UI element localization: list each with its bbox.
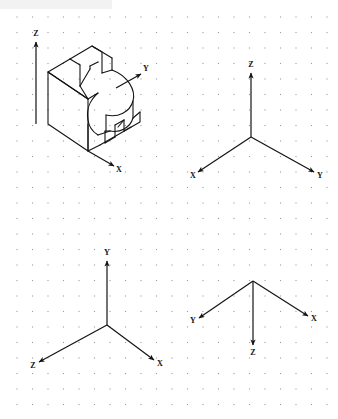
arc-cylinder-lower (110, 118, 133, 131)
edge-notch-front-left (70, 59, 80, 65)
figure-axes-y-up (39, 261, 154, 362)
figure-axes-z-up (198, 73, 314, 172)
axis-label-y: Y (104, 248, 110, 257)
axis-label-z: Z (33, 29, 38, 38)
axis-line-x (253, 281, 308, 316)
axis-line-x (88, 151, 114, 166)
worksheet-page: Z Y X Z X Y Y Z X Z Y X (0, 0, 338, 419)
axis-label-x: X (190, 171, 196, 180)
axis-label-x: X (311, 314, 317, 323)
axis-label-z: Z (30, 361, 35, 370)
edge-base-front-bottom (88, 145, 100, 151)
face-left-back (48, 72, 88, 151)
figure-isometric-object: Z Y X (33, 29, 149, 174)
axis-label-y: Y (143, 64, 149, 73)
drawing-layer: Z Y X Z X Y Y Z X Z Y X (0, 0, 338, 419)
edge-notch-top-right (90, 62, 98, 66)
edge-notch-slope (80, 69, 90, 86)
figure-axes-z-down (199, 281, 308, 345)
edge-slot-bottom (105, 137, 115, 143)
axis-label-z: Z (250, 348, 255, 357)
edge-notch-outer-wall (70, 46, 102, 73)
axis-label-y: Y (190, 316, 196, 325)
edge-notch-down-to-front (80, 86, 88, 99)
edge-cove-to-base (98, 131, 110, 135)
arc-cove-front (87, 93, 98, 135)
axis-label-z: Z (248, 60, 253, 69)
axis-label-x: X (157, 359, 163, 368)
edge-notch-to-boss (102, 70, 112, 73)
axis-line-z (39, 325, 107, 362)
axis-line-y (116, 74, 141, 88)
axis-label-x: X (116, 165, 122, 174)
axis-line-y (199, 281, 253, 318)
object-outline (48, 46, 140, 151)
edge-upper-left-diagonal (48, 72, 88, 99)
edge-base-right-top (133, 112, 140, 118)
axis-label-y: Y (317, 171, 323, 180)
axis-line-x (107, 325, 154, 360)
axis-line-x (198, 137, 251, 172)
arc-cylinder-outer (106, 70, 134, 116)
edge-top-rear-left (48, 59, 70, 72)
axis-line-y (251, 137, 314, 172)
